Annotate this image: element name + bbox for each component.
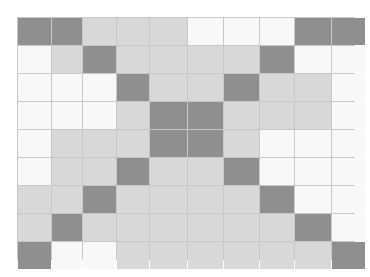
- grid-cell-r8-c0: [18, 242, 51, 269]
- grid-cell-r7-c3: [117, 214, 149, 241]
- grid-cell-r6-c7: [260, 186, 294, 213]
- grid-cell-r3-c6: [224, 102, 259, 129]
- grid-cell-r5-c4: [150, 158, 187, 185]
- grid-cell-r1-c1: [52, 46, 82, 73]
- grid-cell-r5-c2: [83, 158, 116, 185]
- grid-cell-r8-c1: [52, 242, 82, 269]
- grid-cell-r1-c6: [224, 46, 259, 73]
- grid-cell-r5-c3: [117, 158, 149, 185]
- grid-cell-r7-c7: [260, 214, 294, 241]
- grid-cell-r2-c1: [52, 74, 82, 101]
- grid-cell-r6-c4: [150, 186, 187, 213]
- grid-cell-r7-c8: [295, 214, 331, 241]
- grid-cell-r8-c6: [224, 242, 259, 269]
- grid-cell-r5-c0: [18, 158, 51, 185]
- grid-cell-r1-c3: [117, 46, 149, 73]
- grid-cell-r5-c6: [224, 158, 259, 185]
- grid-cell-r0-c0: [18, 18, 51, 45]
- grid-cell-r0-c7: [260, 18, 294, 45]
- grid-cell-r7-c2: [83, 214, 116, 241]
- grid-cell-r3-c2: [83, 102, 116, 129]
- grid-cell-r7-c6: [224, 214, 259, 241]
- grid-cell-r8-c7: [260, 242, 294, 269]
- grid-cell-r3-c3: [117, 102, 149, 129]
- grid-cell-r0-c8: [295, 18, 331, 45]
- grid-cell-r8-c4: [150, 242, 187, 269]
- grid-cell-r2-c3: [117, 74, 149, 101]
- grid-cell-r5-c1: [52, 158, 82, 185]
- grid-cell-r7-c9: [332, 214, 365, 241]
- grid-cell-r8-c8: [295, 242, 331, 269]
- grid-cell-r6-c9: [332, 186, 365, 213]
- grid-cell-r0-c2: [83, 18, 116, 45]
- grid-cell-r4-c5: [188, 130, 223, 157]
- grid-cell-r3-c0: [18, 102, 51, 129]
- grid-cell-r1-c9: [332, 46, 365, 73]
- grid-cell-r1-c2: [83, 46, 116, 73]
- grid-cell-r2-c5: [188, 74, 223, 101]
- grid-cell-r3-c4: [150, 102, 187, 129]
- grid-cell-r6-c5: [188, 186, 223, 213]
- grid-cell-r4-c6: [224, 130, 259, 157]
- grid-cell-r5-c9: [332, 158, 365, 185]
- grid-cell-r0-c5: [188, 18, 223, 45]
- grid-cell-r7-c5: [188, 214, 223, 241]
- grid-cell-r7-c1: [52, 214, 82, 241]
- grid-cell-r5-c7: [260, 158, 294, 185]
- grid-cell-r3-c7: [260, 102, 294, 129]
- grid-cell-r3-c9: [332, 102, 365, 129]
- grid-cell-r0-c4: [150, 18, 187, 45]
- grid-cell-r0-c1: [52, 18, 82, 45]
- grid-cell-r3-c1: [52, 102, 82, 129]
- grid-cell-r1-c4: [150, 46, 187, 73]
- grid-cell-r3-c8: [295, 102, 331, 129]
- grid-cell-r6-c6: [224, 186, 259, 213]
- grid-cell-r4-c8: [295, 130, 331, 157]
- pixel-grid: [17, 17, 355, 260]
- grid-cell-r4-c0: [18, 130, 51, 157]
- grid-cell-r6-c3: [117, 186, 149, 213]
- grid-cell-r1-c7: [260, 46, 294, 73]
- grid-cell-r1-c8: [295, 46, 331, 73]
- grid-cell-r0-c6: [224, 18, 259, 45]
- grid-cell-r8-c2: [83, 242, 116, 269]
- grid-cell-r4-c2: [83, 130, 116, 157]
- grid-cell-r4-c4: [150, 130, 187, 157]
- grid-cell-r2-c7: [260, 74, 294, 101]
- grid-cell-r7-c4: [150, 214, 187, 241]
- grid-cell-r6-c1: [52, 186, 82, 213]
- grid-cell-r2-c9: [332, 74, 365, 101]
- grid-cell-r4-c1: [52, 130, 82, 157]
- grid-cell-r0-c9: [332, 18, 365, 45]
- grid-cell-r6-c8: [295, 186, 331, 213]
- grid-cell-r4-c7: [260, 130, 294, 157]
- grid-cell-r2-c4: [150, 74, 187, 101]
- grid-cell-r5-c5: [188, 158, 223, 185]
- grid-cell-r1-c5: [188, 46, 223, 73]
- grid-cell-r7-c0: [18, 214, 51, 241]
- grid-cell-r8-c9: [332, 242, 365, 269]
- grid-cell-r5-c8: [295, 158, 331, 185]
- grid-cell-r8-c3: [117, 242, 149, 269]
- grid-cell-r6-c2: [83, 186, 116, 213]
- grid-cell-r0-c3: [117, 18, 149, 45]
- grid-cell-r3-c5: [188, 102, 223, 129]
- grid-cell-r4-c9: [332, 130, 365, 157]
- grid-cell-r1-c0: [18, 46, 51, 73]
- grid-cell-r4-c3: [117, 130, 149, 157]
- grid-cell-r2-c6: [224, 74, 259, 101]
- grid-cell-r2-c2: [83, 74, 116, 101]
- grid-cell-r6-c0: [18, 186, 51, 213]
- grid-cell-r8-c5: [188, 242, 223, 269]
- grid-cell-r2-c8: [295, 74, 331, 101]
- grid-cell-r2-c0: [18, 74, 51, 101]
